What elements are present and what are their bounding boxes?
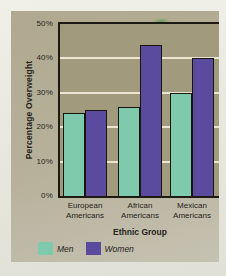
bar-men-2 bbox=[170, 93, 192, 196]
legend-swatch-women bbox=[86, 242, 101, 255]
bar-women-1 bbox=[140, 45, 162, 196]
x-category-label-2: MexicanAmericans bbox=[158, 201, 226, 220]
y-tick-label-30: 30% bbox=[13, 88, 53, 98]
y-tick-label-10: 10% bbox=[13, 157, 53, 167]
plot-area bbox=[58, 22, 219, 198]
bar-women-2 bbox=[192, 58, 214, 196]
legend: MenWomen bbox=[38, 242, 134, 255]
x-axis-title: Ethnic Group bbox=[90, 227, 190, 237]
legend-label-men: Men bbox=[57, 244, 74, 254]
y-tick-label-50: 50% bbox=[13, 19, 53, 29]
legend-label-women: Women bbox=[105, 244, 134, 254]
y-axis-ticks: 0%10%20%30%40%50% bbox=[11, 22, 55, 202]
textbook-photo-page: Percentage Overweight 0%10%20%30%40%50% … bbox=[0, 0, 226, 276]
y-tick-label-0: 0% bbox=[13, 191, 53, 201]
legend-item-women: Women bbox=[86, 242, 134, 255]
y-tick-label-40: 40% bbox=[13, 53, 53, 63]
bar-men-0 bbox=[63, 113, 85, 196]
chart-card: Percentage Overweight 0%10%20%30%40%50% … bbox=[11, 11, 219, 262]
legend-item-men: Men bbox=[38, 242, 74, 255]
legend-swatch-men bbox=[38, 242, 53, 255]
bar-men-1 bbox=[118, 107, 140, 196]
y-tick-label-20: 20% bbox=[13, 122, 53, 132]
bar-women-0 bbox=[85, 110, 107, 196]
